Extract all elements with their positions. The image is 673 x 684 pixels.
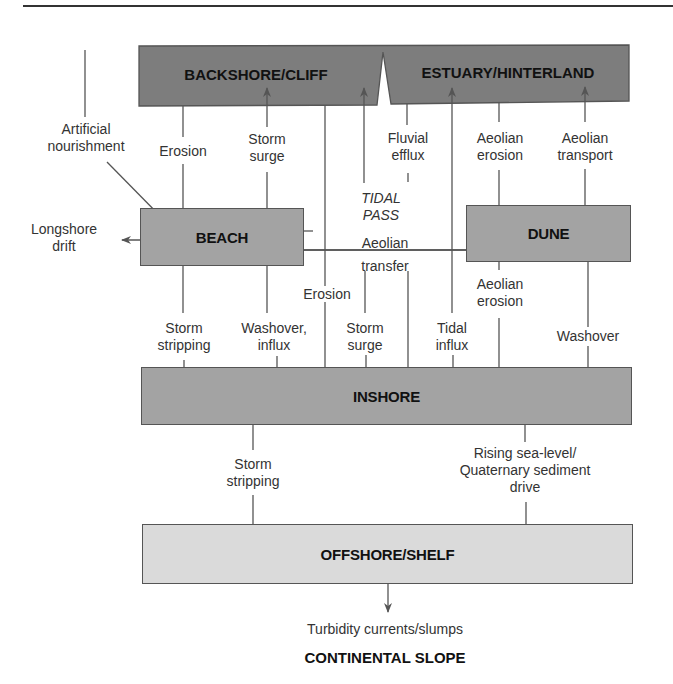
aeolian-erosion-label-1: Aeolianerosion [477,130,524,164]
dune-box: DUNE [466,205,631,262]
fluvial-efflux-label: Fluvialefflux [388,130,428,164]
aeolian-transport-label: Aeoliantransport [557,130,612,164]
longshore-drift-label: Longshoredrift [31,221,97,255]
inshore-box: INSHORE [141,367,632,425]
offshore-shelf-box: OFFSHORE/SHELF [142,524,633,584]
tidal-pass-label: TIDALPASS [361,190,401,224]
estuary-hinterland-label: ESTUARY/HINTERLAND [422,64,595,81]
tidal-influx-label: Tidalinflux [436,320,469,354]
beach-label: BEACH [196,229,248,246]
storm-stripping-label-2: Stormstripping [227,456,280,490]
storm-stripping-label-1: Stormstripping [158,320,211,354]
artificial-nourishment-label: Artificialnourishment [47,121,124,155]
turbidity-currents-label: Turbidity currents/slumps [307,621,463,638]
beach-box: BEACH [140,208,304,266]
erosion-label-2: Erosion [303,286,350,303]
storm-surge-label-2: Stormsurge [346,320,383,354]
aeolian-transfer-label: Aeoliantransfer [361,235,408,275]
washover-label: Washover [557,328,620,345]
washover-influx-label: Washover,influx [241,320,307,354]
rising-sea-level-label: Rising sea-level/Quaternary sedimentdriv… [460,445,591,496]
continental-slope-label: CONTINENTAL SLOPE [304,649,465,666]
offshore-shelf-label: OFFSHORE/SHELF [321,546,455,563]
aeolian-erosion-label-2: Aeolianerosion [477,276,524,310]
backshore-cliff-label: BACKSHORE/CLIFF [184,66,327,83]
inshore-label: INSHORE [353,388,420,405]
dune-label: DUNE [528,225,570,242]
storm-surge-label-1: Stormsurge [248,131,285,165]
erosion-label-1: Erosion [159,143,206,160]
